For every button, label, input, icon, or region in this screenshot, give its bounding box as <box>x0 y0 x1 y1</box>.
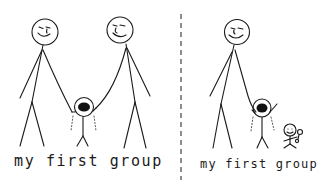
adult-figure-left <box>20 19 72 146</box>
caption-left: my first group <box>14 152 163 170</box>
right-panel: my first group <box>200 20 318 172</box>
left-panel: my first group <box>14 17 163 170</box>
comic-strip: my first group <box>0 0 325 185</box>
crying-child-left <box>71 98 96 147</box>
adult-figure-right <box>96 17 150 148</box>
adult-figure <box>210 20 256 149</box>
baby-with-rattle <box>284 124 303 148</box>
caption-right: my first group <box>200 157 318 171</box>
crying-child-right <box>251 99 277 148</box>
